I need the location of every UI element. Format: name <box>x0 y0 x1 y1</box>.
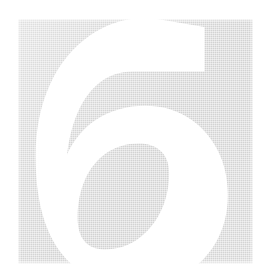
number-panel <box>18 19 253 264</box>
page-canvas: 6 <box>0 0 271 280</box>
panel-fill <box>18 19 253 264</box>
